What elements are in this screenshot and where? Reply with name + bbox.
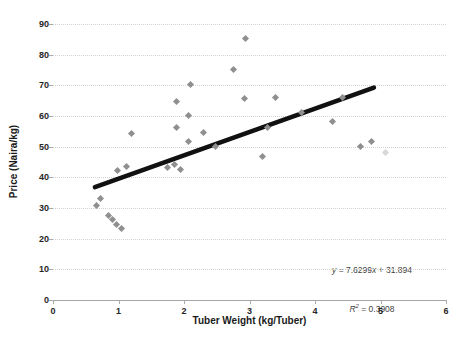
x-tick bbox=[381, 300, 382, 304]
y-tick-label: 50 bbox=[23, 142, 49, 152]
x-tick bbox=[184, 300, 185, 304]
y-tick-label: 60 bbox=[23, 111, 49, 121]
y-tick-label: 10 bbox=[23, 264, 49, 274]
y-tick-label: 30 bbox=[23, 203, 49, 213]
x-tick bbox=[446, 300, 447, 304]
y-tick-label: 70 bbox=[23, 80, 49, 90]
trend-line-layer bbox=[53, 24, 446, 300]
plot-area: y = 7.6299x + 31.894 R2 = 0.3908 0102030… bbox=[53, 24, 446, 301]
x-tick bbox=[53, 300, 54, 304]
y-tick-label: 0 bbox=[23, 295, 49, 305]
scatter-chart: Price (Naira/kg) y = 7.6299x + 31.894 R2… bbox=[0, 0, 470, 346]
x-tick bbox=[250, 300, 251, 304]
x-tick bbox=[315, 300, 316, 304]
y-tick-label: 90 bbox=[23, 19, 49, 29]
x-tick bbox=[119, 300, 120, 304]
x-axis-title: Tuber Weight (kg/Tuber) bbox=[53, 315, 446, 326]
y-axis-title: Price (Naira/kg) bbox=[8, 112, 19, 212]
y-tick-label: 20 bbox=[23, 234, 49, 244]
y-tick-label: 40 bbox=[23, 172, 49, 182]
y-tick-label: 80 bbox=[23, 50, 49, 60]
trend-line bbox=[95, 88, 374, 188]
